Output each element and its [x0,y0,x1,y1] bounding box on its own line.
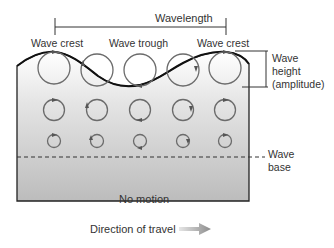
wave-trough-label: Wave trough [109,37,168,49]
wavelength-label: Wavelength [155,12,213,24]
wave-base-label-2: base [268,161,291,173]
wave-height-label-1: Wave [272,52,298,64]
wave-crest-right-label: Wave crest [197,37,249,49]
wave-height-label-3: (amplitude) [272,78,325,90]
direction-of-travel-label: Direction of travel [90,223,176,235]
wave-base-label-1: Wave [268,148,294,160]
water-body [17,52,249,201]
wave-height-label-2: height [272,65,301,77]
direction-arrow-icon [179,223,211,235]
wave-crest-left-label: Wave crest [31,37,83,49]
no-motion-label: No motion [119,193,169,205]
